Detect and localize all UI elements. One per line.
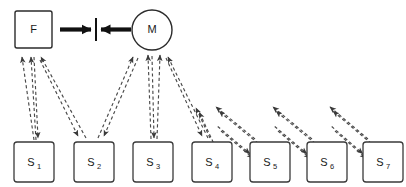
- edge-m-to-s4: [166, 58, 202, 136]
- edge-group-f-fan: [22, 57, 86, 140]
- edge-s4-to-m: [168, 57, 208, 138]
- edge-group-m-fan: [98, 55, 208, 139]
- edge-s3-to-m-b: [157, 55, 160, 139]
- s-node-group: S1S2S3S4S5S6S7: [14, 142, 403, 182]
- s-node-s5[interactable]: S5: [250, 142, 290, 182]
- s-node-subscript: 7: [386, 162, 390, 171]
- s-node-label: S: [376, 156, 383, 168]
- s-node-label: S: [27, 156, 34, 168]
- s-node-subscript: 6: [330, 162, 334, 171]
- solid-arrow-group: [60, 18, 131, 41]
- edge-s7-s6-back: [330, 107, 368, 139]
- f-node-label: F: [30, 23, 37, 35]
- s-node-label: S: [263, 156, 270, 168]
- s-node-label: S: [146, 156, 153, 168]
- edge-s4-upleft-extra-parallel: [199, 113, 213, 143]
- top-node-group: FM: [15, 10, 172, 50]
- edge-s2-to-f: [41, 57, 86, 138]
- s-node-s2[interactable]: S2: [74, 142, 114, 182]
- edge-s3-to-m: [148, 55, 151, 139]
- s-node-label: S: [320, 156, 327, 168]
- diagram-canvas: S1S2S3S4S5S6S7 FM: [0, 0, 406, 187]
- s-node-subscript: 3: [156, 162, 160, 171]
- s-node-label: S: [205, 156, 212, 168]
- s-node-s3[interactable]: S3: [133, 142, 173, 182]
- edge-s5-s4-back: [216, 107, 255, 139]
- s-node-s7[interactable]: S7: [363, 142, 403, 182]
- s-node-s1[interactable]: S1: [14, 142, 54, 182]
- edge-s4-upleft-extra: [196, 108, 210, 138]
- s-node-subscript: 1: [37, 162, 41, 171]
- edge-s5-s4-back-parallel: [219, 112, 258, 144]
- s-node-label: S: [87, 156, 94, 168]
- edge-s6-s5-back: [273, 107, 312, 139]
- top-node-m[interactable]: M: [132, 10, 172, 50]
- s-node-s4[interactable]: S4: [192, 142, 232, 182]
- diagram-svg: S1S2S3S4S5S6S7 FM: [0, 0, 406, 187]
- edge-m-to-s3: [152, 56, 154, 138]
- s-node-s6[interactable]: S6: [307, 142, 347, 182]
- edge-s7-s6-back-parallel: [333, 112, 371, 144]
- edge-f-to-s2: [40, 60, 78, 136]
- edge-m-to-s2: [104, 58, 138, 136]
- s-node-subscript: 2: [97, 162, 101, 171]
- s-node-subscript: 5: [273, 162, 277, 171]
- edge-s6-s5-back-parallel: [276, 112, 315, 144]
- s-node-subscript: 4: [215, 162, 219, 171]
- top-node-f[interactable]: F: [15, 11, 52, 48]
- m-node-label: M: [147, 23, 156, 35]
- edge-s2-to-m: [98, 57, 133, 138]
